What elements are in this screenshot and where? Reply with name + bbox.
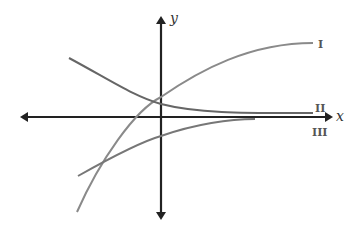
curve-label-II: II bbox=[315, 102, 325, 115]
graph: x y I II III bbox=[0, 0, 358, 238]
y-axis-bottom-arrow-icon bbox=[156, 212, 166, 220]
curve-III bbox=[78, 119, 255, 176]
curve-label-III: III bbox=[312, 126, 327, 139]
x-axis-left-arrow-icon bbox=[20, 112, 28, 122]
curve-I bbox=[77, 43, 313, 212]
y-axis-top-arrow-icon bbox=[156, 16, 166, 24]
y-axis-label: y bbox=[169, 10, 179, 26]
curve-II bbox=[69, 58, 313, 113]
curve-label-I: I bbox=[318, 38, 323, 51]
x-axis-right-arrow-icon bbox=[325, 112, 333, 122]
x-axis-label: x bbox=[336, 108, 344, 124]
